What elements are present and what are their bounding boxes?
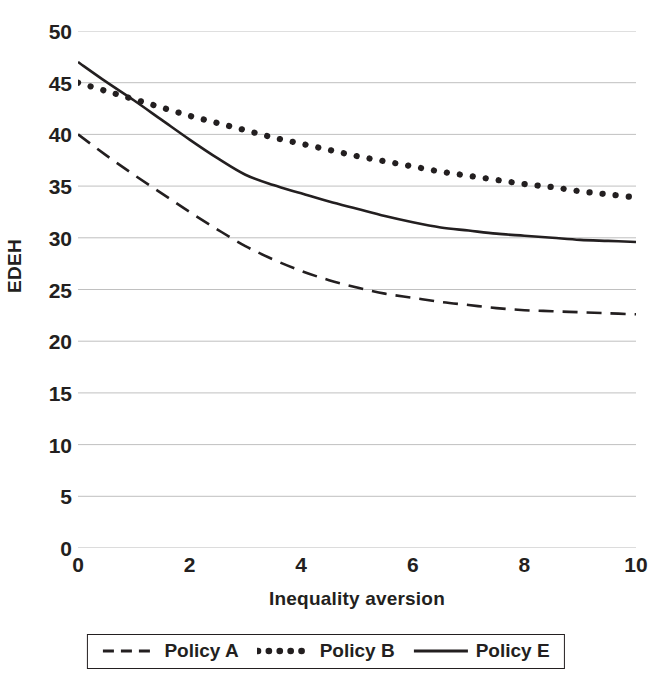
- y-tick-label: 30: [26, 228, 72, 249]
- legend-label: Policy B: [320, 640, 395, 662]
- legend-label: Policy E: [476, 640, 550, 662]
- x-axis-tick-labels: 0246810: [0, 554, 651, 584]
- x-axis-title: Inequality aversion: [78, 588, 636, 610]
- legend-swatch-solid: [413, 644, 469, 658]
- legend-label: Policy A: [164, 640, 238, 662]
- plot-area: [78, 31, 636, 548]
- x-tick-label: 10: [606, 554, 651, 575]
- legend-swatch-dashed: [101, 644, 157, 658]
- x-tick-label: 4: [271, 554, 331, 575]
- x-tick-label: 2: [160, 554, 220, 575]
- y-tick-label: 35: [26, 176, 72, 197]
- legend-entry-policy-e: Policy E: [413, 640, 550, 662]
- series-line-policy-a: [78, 134, 636, 314]
- y-tick-label: 20: [26, 331, 72, 352]
- x-tick-label: 6: [383, 554, 443, 575]
- x-tick-label: 8: [494, 554, 554, 575]
- y-tick-label: 50: [26, 21, 72, 42]
- y-tick-label: 25: [26, 280, 72, 301]
- chart-figure: EDEH 05101520253035404550 0246810 Inequa…: [0, 0, 651, 676]
- y-tick-label: 40: [26, 124, 72, 145]
- series-line-policy-b: [78, 83, 636, 198]
- y-tick-label: 10: [26, 435, 72, 456]
- y-tick-label: 45: [26, 73, 72, 94]
- legend-entry-policy-a: Policy A: [101, 640, 238, 662]
- y-tick-label: 5: [26, 486, 72, 507]
- chart-legend: Policy APolicy BPolicy E: [86, 634, 564, 669]
- x-tick-label: 0: [48, 554, 108, 575]
- series-line-policy-e: [78, 62, 636, 242]
- plot-svg: [78, 31, 636, 548]
- legend-entry-policy-b: Policy B: [257, 640, 395, 662]
- y-tick-label: 15: [26, 383, 72, 404]
- legend-swatch-dotted: [257, 644, 313, 658]
